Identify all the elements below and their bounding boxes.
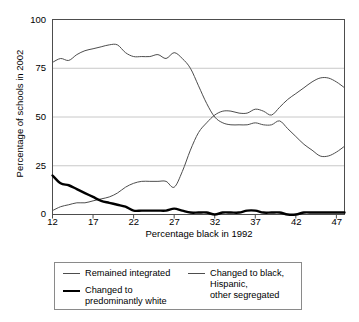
x-tick-47: 47 (325, 216, 349, 227)
x-tick-32: 32 (203, 216, 227, 227)
legend-line-swatch-thin (63, 273, 80, 274)
data-series-group (53, 44, 345, 215)
line-chart-svg (0, 0, 359, 250)
x-tick-12: 12 (41, 216, 65, 227)
legend-label: Changed to predominantly white (85, 285, 167, 307)
series-line (53, 44, 345, 156)
x-tick-42: 42 (284, 216, 308, 227)
legend-entry-predominantly-white: Changed to predominantly white (63, 285, 188, 307)
gridlines (53, 68, 345, 166)
plot-area: Percentage of schools in 2002 100 75 50 … (0, 0, 359, 250)
x-axis-label: Percentage black in 1992 (52, 228, 346, 239)
legend-entry-remained-integrated: Remained integrated (63, 268, 188, 279)
y-tick-100: 100 (20, 14, 46, 25)
x-tick-22: 22 (122, 216, 146, 227)
x-tick-27: 27 (162, 216, 186, 227)
series-line (53, 78, 345, 211)
x-tick-37: 37 (244, 216, 268, 227)
legend-label: Remained integrated (85, 268, 170, 279)
chart-figure: Percentage of schools in 2002 100 75 50 … (0, 0, 359, 322)
y-tick-75: 75 (20, 62, 46, 73)
legend-label: Changed to black, Hispanic, other segreg… (210, 268, 300, 301)
x-tick-17: 17 (81, 216, 105, 227)
chart-legend: Remained integrated Changed to predomina… (54, 262, 302, 310)
y-tick-50: 50 (20, 111, 46, 122)
y-tick-25: 25 (20, 160, 46, 171)
legend-entry-black-hispanic-segregated: Changed to black, Hispanic, other segreg… (188, 268, 300, 301)
legend-line-swatch-thick (63, 290, 80, 292)
legend-line-swatch-thin (188, 273, 205, 274)
series-line (53, 176, 345, 215)
